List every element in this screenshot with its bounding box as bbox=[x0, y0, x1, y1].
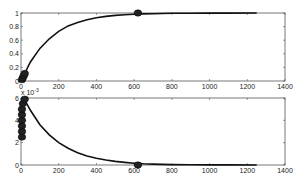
x-tick-label: 400 bbox=[91, 167, 103, 174]
y-tick-label: 0 bbox=[15, 162, 19, 169]
x-tick-label: 1400 bbox=[277, 167, 293, 174]
x-tick-label: 1000 bbox=[202, 83, 218, 90]
data-marker bbox=[134, 10, 142, 16]
y-tick-label: 2 bbox=[15, 139, 19, 146]
figure: 020040060080010001200140000.20.40.60.81 … bbox=[0, 0, 302, 183]
y-tick-label: 0.2 bbox=[9, 64, 19, 71]
x-tick-label: 400 bbox=[91, 83, 103, 90]
top-axes: 020040060080010001200140000.20.40.60.81 bbox=[9, 10, 293, 91]
x-tick-label: 200 bbox=[53, 167, 65, 174]
y-tick-label: 0.4 bbox=[9, 50, 19, 57]
x-tick-label: 800 bbox=[166, 83, 178, 90]
y-tick-label: 6 bbox=[15, 95, 19, 102]
x-tick-label: 600 bbox=[128, 83, 140, 90]
x-tick-label: 1000 bbox=[202, 167, 218, 174]
x-tick-label: 0 bbox=[19, 167, 23, 174]
x-tick-label: 1400 bbox=[277, 83, 293, 90]
x-tick-label: 200 bbox=[53, 83, 65, 90]
y-tick-label: 1 bbox=[15, 10, 19, 17]
top-frame bbox=[21, 13, 285, 81]
y-tick-label: 0.6 bbox=[9, 37, 19, 44]
y-tick-label: 0.8 bbox=[9, 23, 19, 30]
data-marker bbox=[21, 96, 29, 102]
bottom-axes: 02004006008001000120014000246 bbox=[15, 95, 293, 175]
bottom-frame bbox=[21, 98, 285, 165]
data-marker bbox=[21, 70, 29, 76]
x-tick-label: 1200 bbox=[239, 167, 255, 174]
x-tick-label: 1200 bbox=[239, 83, 255, 90]
x-tick-label: 800 bbox=[166, 167, 178, 174]
data-marker bbox=[134, 162, 142, 168]
y-multiplier-label: x 10-3 bbox=[21, 87, 39, 96]
